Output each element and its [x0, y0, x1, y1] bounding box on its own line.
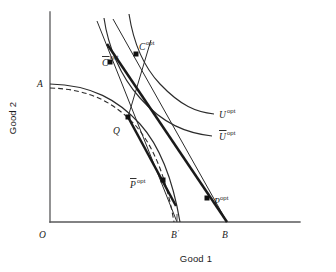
label-c-letter: C — [139, 42, 146, 52]
label-group: O A Q C opt C opt U opt U — [7, 40, 236, 264]
label-point-a: A — [36, 79, 43, 89]
x-axis-title: Good 1 — [180, 253, 212, 264]
label-origin: O — [39, 230, 46, 240]
label-pbar-superscript: opt — [137, 178, 146, 184]
label-point-p-opt: P opt — [213, 195, 229, 207]
ppf-dashed-curve — [50, 88, 174, 222]
budget-segment-pbar-opt — [128, 117, 176, 206]
label-ubar-letter: U — [219, 132, 227, 142]
label-p-letter: P — [213, 197, 220, 207]
label-point-b: B — [222, 230, 228, 240]
label-cbar-superscript: opt — [110, 54, 119, 60]
budget-highlight-group — [107, 44, 227, 222]
label-pbar-letter: P — [129, 180, 136, 190]
label-cbar-letter: C — [102, 58, 109, 68]
point-marker-c-opt — [134, 52, 139, 57]
label-point-q: Q — [113, 126, 120, 136]
label-bprime-mark: ′ — [178, 229, 180, 235]
point-marker-q — [126, 115, 131, 120]
label-ubar-superscript: opt — [227, 130, 236, 136]
label-curve-u-opt: U opt — [219, 108, 236, 120]
label-u-letter: U — [219, 110, 227, 120]
economics-diagram-svg: O A Q C opt C opt U opt U — [0, 0, 336, 272]
label-c-superscript: opt — [146, 40, 155, 46]
label-u-superscript: opt — [227, 108, 236, 114]
label-point-c-opt: C opt — [139, 40, 155, 52]
budget-line-pbar-opt — [97, 21, 177, 222]
budget-segment-p-opt — [107, 44, 227, 222]
figure-container: O A Q C opt C opt U opt U — [0, 0, 336, 272]
axis-group — [50, 12, 300, 222]
label-bprime-letter: B — [171, 230, 177, 240]
label-curve-ubar-opt: U opt — [219, 130, 236, 142]
indifference-curve-u-opt — [129, 14, 214, 114]
label-point-b-prime: B ′ — [171, 229, 180, 240]
point-marker-pbar-opt — [161, 178, 166, 183]
label-p-superscript: opt — [220, 195, 229, 201]
y-axis-title: Good 2 — [7, 102, 18, 134]
label-point-pbar-opt: P opt — [129, 178, 146, 190]
ppf-solid-curve — [50, 84, 180, 222]
point-marker-p-opt — [205, 196, 210, 201]
frontier-group — [50, 84, 180, 222]
